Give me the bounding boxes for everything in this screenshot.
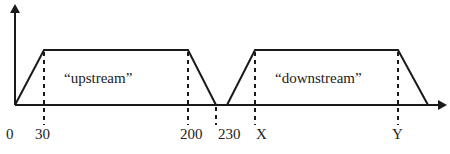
dashed-guides — [44, 52, 398, 125]
tick-label-0: 0 — [6, 126, 14, 142]
tick-label-30: 30 — [35, 126, 50, 142]
trapezoid-diagram: “upstream” “downstream” 0 30 200 230 X Y — [0, 0, 450, 154]
tick-label-y: Y — [392, 126, 403, 142]
x-axis-arrow-icon — [438, 100, 447, 110]
upstream-label: “upstream” — [64, 70, 132, 86]
downstream-label: “downstream” — [275, 70, 362, 86]
tick-label-230: 230 — [218, 126, 241, 142]
tick-label-200: 200 — [180, 126, 203, 142]
tick-label-x: X — [256, 126, 267, 142]
y-axis-arrow-icon — [10, 4, 20, 13]
diagram-svg: “upstream” “downstream” 0 30 200 230 X Y — [0, 0, 450, 154]
